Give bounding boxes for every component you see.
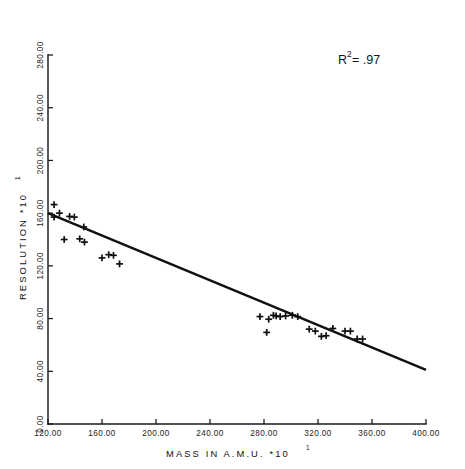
y-tick-label: 280.00 — [36, 41, 45, 68]
y-axis-ticks — [48, 55, 53, 424]
x-tick-label: 240.00 — [196, 429, 223, 438]
x-axis-title: MASS IN A.M.U. *10 1 — [166, 444, 310, 459]
data-point-marker — [263, 329, 270, 336]
y-axis-title-text: RESOLUTION *10 — [17, 193, 28, 300]
x-axis-title-text: MASS IN A.M.U. *10 — [166, 448, 290, 459]
x-axis-tick-labels: 120.00160.00200.00240.00280.00320.00360.… — [34, 429, 439, 438]
y-tick-label: 120.00 — [36, 252, 45, 279]
data-point-marker — [257, 313, 264, 320]
regression-line-segment — [48, 213, 426, 370]
data-point-marker — [306, 326, 313, 333]
r-squared-symbol: R — [338, 53, 347, 67]
data-point-marker — [116, 260, 123, 267]
data-point-marker — [61, 236, 68, 243]
regression-line — [48, 213, 426, 370]
x-tick-label: 320.00 — [304, 429, 331, 438]
data-point-marker — [347, 328, 354, 335]
x-axis-title-exponent: 1 — [306, 444, 310, 451]
data-point-marker — [323, 332, 330, 339]
x-tick-label: 200.00 — [142, 429, 169, 438]
y-tick-label: 160.00 — [36, 199, 45, 226]
x-tick-label: 400.00 — [412, 429, 439, 438]
axes-group — [48, 55, 426, 424]
data-point-marker — [81, 239, 88, 246]
x-tick-label: 160.00 — [88, 429, 115, 438]
data-points-group — [51, 201, 366, 342]
x-axis-ticks — [48, 419, 426, 424]
x-tick-label: 280.00 — [250, 429, 277, 438]
y-tick-label: 80.00 — [36, 307, 45, 330]
y-axis-title-exponent: 1 — [14, 176, 21, 180]
data-point-marker — [76, 235, 83, 242]
data-point-marker — [265, 316, 272, 323]
plot-canvas: 120.00160.00200.00240.00280.00320.00360.… — [0, 0, 465, 469]
data-point-marker — [110, 252, 117, 259]
y-tick-label: 240.00 — [36, 94, 45, 121]
y-tick-label: 200.00 — [36, 147, 45, 174]
data-point-marker — [71, 214, 78, 221]
x-tick-label: 360.00 — [358, 429, 385, 438]
y-tick-label: 40.00 — [36, 360, 45, 383]
r-squared-annotation: R 2 = .97 — [338, 49, 380, 67]
data-point-marker — [99, 255, 106, 262]
data-point-marker — [51, 201, 58, 208]
y-axis-title: RESOLUTION *10 1 — [14, 176, 28, 300]
y-tick-label: 0.00 — [36, 415, 45, 433]
r-squared-value: = .97 — [352, 53, 380, 67]
data-point-marker — [312, 328, 319, 335]
scatter-plot-figure: 120.00160.00200.00240.00280.00320.00360.… — [0, 0, 465, 469]
y-axis-tick-labels: 0.0040.0080.00120.00160.00200.00240.0028… — [36, 41, 45, 433]
data-point-marker — [56, 210, 63, 217]
